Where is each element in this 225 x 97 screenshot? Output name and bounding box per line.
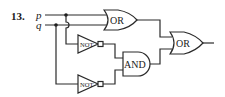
not-bottom-label: NOT — [80, 81, 93, 88]
logic-circuit-diagram: 13. p q NOT NOT AND OR OR — [0, 0, 225, 97]
not-top-label: NOT — [80, 41, 93, 48]
wire-p-to-not-top — [66, 15, 78, 44]
or-final-label: OR — [176, 38, 190, 49]
not-gate-top: NOT — [78, 35, 103, 53]
wire-and-to-final — [150, 49, 172, 64]
wire-q-to-not-bottom — [56, 25, 78, 84]
wire-not-bottom-to-and — [103, 70, 123, 84]
not-gate-bottom: NOT — [78, 75, 103, 93]
input-q-label: q — [36, 19, 42, 31]
wire-or-top-to-final — [137, 20, 172, 37]
or-gate-top: OR — [104, 10, 137, 30]
or-top-label: OR — [110, 15, 124, 26]
and-gate: AND — [123, 52, 150, 76]
problem-number: 13. — [11, 10, 25, 22]
or-gate-final: OR — [170, 32, 203, 54]
wire-not-top-to-and — [103, 44, 123, 58]
and-label: AND — [124, 59, 146, 70]
